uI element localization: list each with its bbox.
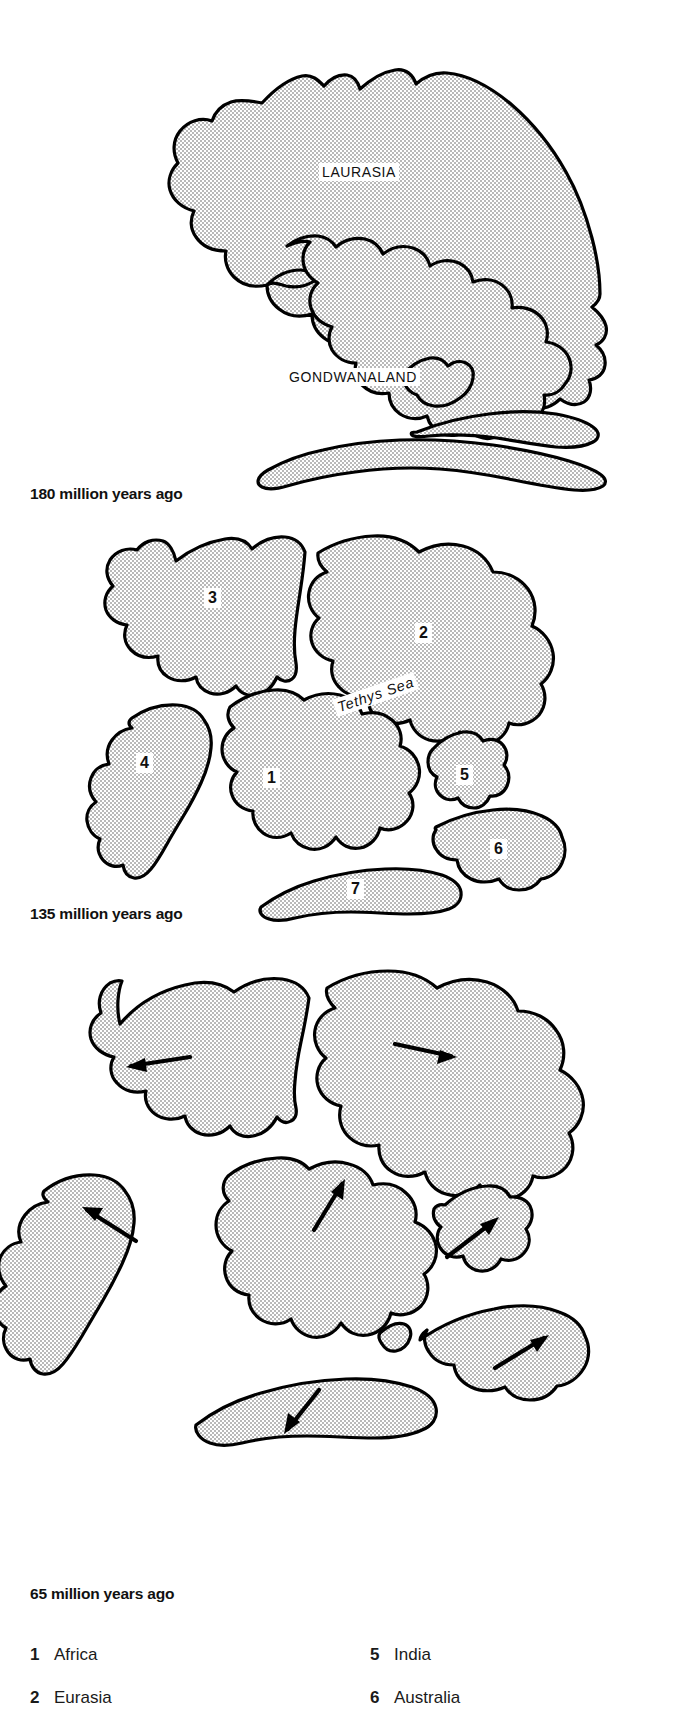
legend-item: 2 Eurasia [30,1688,162,1731]
landmass-south-america-65 [0,1175,134,1374]
panel-65-million-years: 3 2 4 1 5 6 7 [0,940,682,1600]
landmass-africa-65 [216,1158,436,1338]
label-gondwanaland: GONDWANALAND [286,368,420,386]
legend-number: 1 [30,1645,54,1665]
legend-number: 6 [370,1688,394,1708]
caption-135-million-years: 135 million years ago [30,905,183,923]
legend-number: 2 [30,1688,54,1708]
plate-number-5-135: 5 [456,765,473,785]
plate-number-7-135: 7 [347,879,364,899]
legend-label: Australia [394,1688,460,1708]
legend-item: 5 India [370,1645,470,1688]
panel-135-million-years: 3 2 4 1 5 6 7 Tethys Sea [0,500,682,940]
plate-number-2-135: 2 [415,623,432,643]
caption-180-million-years: 180 million years ago [30,485,183,503]
legend-number: 5 [370,1645,394,1665]
landmass-south-america-135 [87,705,211,878]
caption-65-million-years: 65 million years ago [30,1585,174,1603]
legend-column-left: 1 Africa 2 Eurasia 3 North America [30,1645,162,1732]
plate-number-4-135: 4 [136,753,153,773]
plate-number-3-135: 3 [204,588,221,608]
legend-item: 1 Africa [30,1645,162,1688]
landmass-north-america-135 [105,537,305,696]
label-laurasia: LAURASIA [319,163,399,181]
continental-drift-figure: LAURASIA GONDWANALAND 3 2 4 1 5 6 7 Teth [0,0,682,1732]
legend-label: Eurasia [54,1688,112,1708]
plate-number-1-135: 1 [263,768,280,788]
legend-item: 6 Australia [370,1688,470,1731]
legend-label: India [394,1645,431,1665]
landmass-north-america-65 [90,979,309,1137]
legend-column-right: 5 India 6 Australia 7 Antarctica [370,1645,470,1732]
plate-number-6-135: 6 [490,839,507,859]
landmass-antarctica-65 [196,1379,437,1445]
legend-label: Africa [54,1645,97,1665]
landmass-australia-65 [420,1306,589,1400]
panel-180-million-years: LAURASIA GONDWANALAND [0,0,682,520]
